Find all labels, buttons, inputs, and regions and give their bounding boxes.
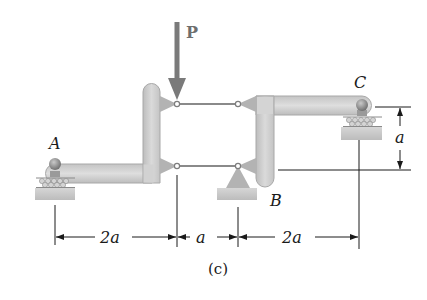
point-b-label: B	[269, 191, 282, 210]
pin-upper-left	[174, 101, 179, 106]
pin-upper-right	[235, 101, 240, 106]
vertical-dimension-label: a	[395, 128, 405, 147]
pin-c	[356, 99, 368, 111]
point-c-label: C	[354, 73, 366, 92]
dimension-label-middle: a	[196, 228, 206, 247]
pin-lower-left	[174, 163, 179, 168]
load-p-arrow	[168, 22, 186, 100]
mechanism-diagram: P	[0, 0, 427, 300]
pin-a	[49, 158, 61, 170]
dimension-label-left: 2a	[99, 228, 120, 247]
figure-caption: (c)	[208, 260, 228, 278]
dimension-label-right: 2a	[281, 228, 302, 247]
left-bent-member	[46, 84, 178, 184]
load-p-label: P	[186, 23, 198, 42]
right-bent-member	[238, 96, 372, 187]
point-a-label: A	[47, 134, 61, 153]
